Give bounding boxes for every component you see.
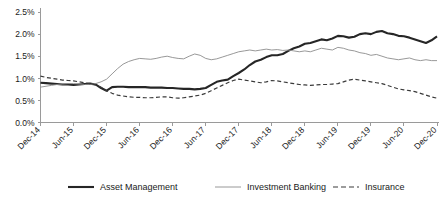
x-tick-label: Dec-18 [280, 125, 307, 152]
chart-legend: Asset ManagementInvestment BankingInsura… [68, 182, 405, 192]
y-tick-label: 1.0% [15, 74, 35, 84]
legend-label-asset-management: Asset Management [100, 182, 178, 192]
y-tick-label: 2.5% [15, 7, 35, 17]
x-tick-label: Jun-18 [248, 125, 274, 151]
x-tick-label: Jun-16 [116, 125, 142, 151]
x-tick-label: Dec-20 [412, 125, 439, 152]
series-line-investment-banking [41, 47, 438, 87]
legend-label-insurance: Insurance [365, 182, 405, 192]
line-chart: 0.0%0.5%1.0%1.5%2.0%2.5% Dec-14Jun-15Dec… [0, 0, 442, 204]
x-tick-label: Dec-16 [148, 125, 175, 152]
y-tick-label: 0.0% [15, 118, 35, 128]
x-tick-label: Jun-20 [380, 125, 406, 151]
series-lines [41, 31, 438, 98]
x-tick-label: Dec-15 [82, 125, 109, 152]
legend-label-investment-banking: Investment Banking [247, 182, 326, 192]
chart-canvas: 0.0%0.5%1.0%1.5%2.0%2.5% Dec-14Jun-15Dec… [0, 0, 442, 204]
x-tick-label: Jun-17 [182, 125, 208, 151]
x-tick-label: Dec-19 [346, 125, 373, 152]
y-tick-label: 1.5% [15, 51, 35, 61]
y-tick-label: 0.5% [15, 96, 35, 106]
x-tick-label: Jun-15 [50, 125, 76, 151]
x-tick-label: Dec-17 [214, 125, 241, 152]
y-axis: 0.0%0.5%1.0%1.5%2.0%2.5% [15, 7, 40, 128]
x-tick-label: Jun-19 [314, 125, 340, 151]
x-tick-label: Dec-14 [15, 125, 42, 152]
y-tick-label: 2.0% [15, 29, 35, 39]
series-line-insurance [41, 76, 438, 98]
x-axis: Dec-14Jun-15Dec-15Jun-16Dec-16Jun-17Dec-… [15, 123, 439, 152]
